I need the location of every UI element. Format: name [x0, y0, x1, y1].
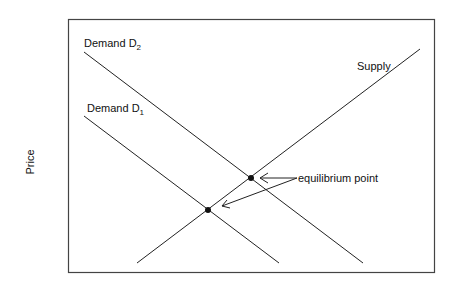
supply-label: Supply [357, 60, 391, 72]
arrow-lower [222, 178, 297, 208]
supply-line [137, 49, 420, 263]
demand-d1-label: Demand D1 [87, 102, 145, 117]
y-axis-label: Price [24, 149, 36, 174]
supply-demand-diagram: Demand D2 Demand D1 Supply equilibrium p… [0, 0, 457, 289]
demand-d2-line [84, 52, 363, 263]
equilibrium-dot-lower [205, 207, 211, 213]
arrow-upper [260, 173, 297, 183]
equilibrium-label: equilibrium point [298, 172, 378, 184]
demand-d1-line [84, 116, 279, 263]
equilibrium-dot-upper [248, 175, 254, 181]
demand-d2-label: Demand D2 [84, 37, 142, 52]
